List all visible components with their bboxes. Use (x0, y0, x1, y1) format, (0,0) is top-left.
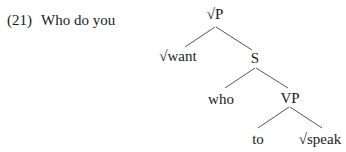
tree-node-want: √want (159, 48, 196, 65)
branch-rootP-S (216, 27, 252, 50)
branch-rootP-want (185, 27, 215, 47)
branch-VP-to (258, 107, 289, 128)
branch-S-VP (256, 68, 288, 88)
syntax-tree-branches (0, 0, 346, 152)
tree-node-root-p: √P (207, 6, 224, 23)
tree-node-s: S (251, 50, 259, 67)
branch-S-who (225, 68, 255, 88)
tree-node-vp: VP (280, 90, 299, 107)
tree-node-speak: √speak (299, 131, 341, 148)
branch-VP-speak (290, 107, 322, 128)
tree-node-who: who (208, 91, 234, 108)
tree-node-to: to (252, 131, 264, 148)
